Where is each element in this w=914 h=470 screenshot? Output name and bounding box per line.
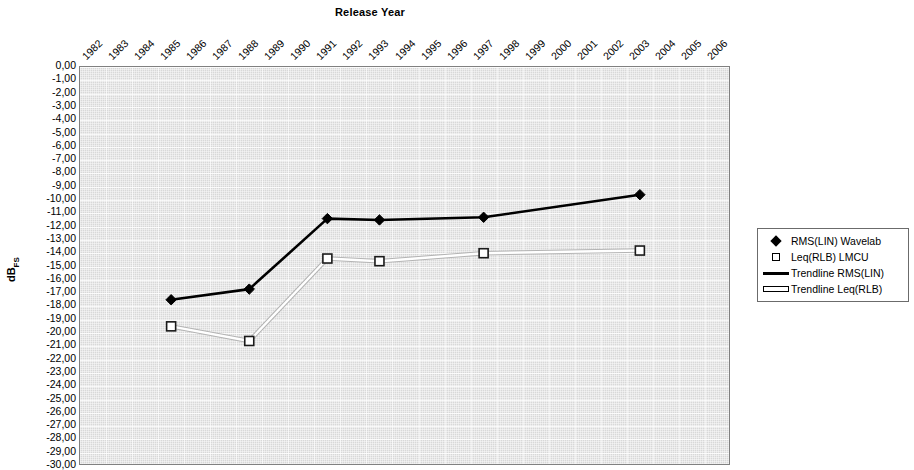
y-axis-tick-label: -23,00 xyxy=(4,366,76,376)
data-point-diamond xyxy=(478,212,488,222)
y-axis-tick-label: -22,00 xyxy=(4,353,76,363)
y-axis-tick-label: -6,00 xyxy=(4,140,76,150)
chart-legend: RMS(LIN) Wavelab Leq(RLB) LMCU Trendline… xyxy=(757,228,909,302)
y-axis-tick-label: -13,00 xyxy=(4,233,76,243)
x-axis-tick-label: 2003 xyxy=(626,37,651,62)
x-axis-tick-label: 2005 xyxy=(678,37,703,62)
data-point-square xyxy=(323,254,332,263)
legend-label: RMS(LIN) Wavelab xyxy=(790,235,881,247)
y-axis-tick-label: -5,00 xyxy=(4,127,76,137)
legend-label: Trendline Leq(RLB) xyxy=(790,283,882,295)
series-layer xyxy=(80,67,730,465)
x-axis-tick-label: 1986 xyxy=(184,37,209,62)
y-axis-tick-label: -24,00 xyxy=(4,379,76,389)
y-axis-tick-label: -16,00 xyxy=(4,273,76,283)
data-point-diamond xyxy=(374,215,384,225)
x-axis-tick-label: 1989 xyxy=(262,37,287,62)
y-axis-tick-label: -28,00 xyxy=(4,432,76,442)
series-rms-lin-wavelab xyxy=(166,189,645,304)
data-point-square xyxy=(479,249,488,258)
y-axis-tick-label: -4,00 xyxy=(4,113,76,123)
series-leq-rlb-lmcu xyxy=(167,246,645,345)
series-line xyxy=(171,251,640,342)
y-axis-tick-label: -21,00 xyxy=(4,339,76,349)
x-axis-ticks: 1982198319841985198619871988198919901991… xyxy=(0,0,914,66)
legend-label: Trendline RMS(LIN) xyxy=(790,267,884,279)
series-line xyxy=(171,195,640,300)
y-axis-ticks: 0,00-1,00-2,00-3,00-4,00-5,00-6,00-7,00-… xyxy=(0,0,76,467)
x-axis-tick-label: 1990 xyxy=(288,37,313,62)
legend-item-trendline-leq-rlb[interactable]: Trendline Leq(RLB) xyxy=(762,281,905,297)
y-axis-tick-label: -15,00 xyxy=(4,260,76,270)
y-axis-tick-label: -12,00 xyxy=(4,220,76,230)
y-axis-tick-label: -1,00 xyxy=(4,73,76,83)
y-axis-tick-label: -3,00 xyxy=(4,100,76,110)
y-axis-tick-label: -30,00 xyxy=(4,459,76,469)
x-axis-tick-label: 1987 xyxy=(210,37,235,62)
x-axis-tick-label: 2001 xyxy=(574,37,599,62)
legend-item-rms-lin-wavelab[interactable]: RMS(LIN) Wavelab xyxy=(762,233,905,249)
x-axis-tick-label: 2000 xyxy=(548,37,573,62)
x-axis-tick-label: 1998 xyxy=(496,37,521,62)
x-axis-tick-label: 1999 xyxy=(522,37,547,62)
y-axis-tick-label: -8,00 xyxy=(4,166,76,176)
data-point-square xyxy=(245,336,254,345)
x-axis-tick-label: 1993 xyxy=(366,37,391,62)
plot-area xyxy=(79,66,730,465)
y-axis-tick-label: -25,00 xyxy=(4,393,76,403)
y-axis-tick-label: -2,00 xyxy=(4,87,76,97)
legend-item-leq-rlb-lmcu[interactable]: Leq(RLB) LMCU xyxy=(762,249,905,265)
black-line-icon xyxy=(762,272,790,275)
y-axis-tick-label: -14,00 xyxy=(4,246,76,256)
y-axis-tick-label: -7,00 xyxy=(4,153,76,163)
y-axis-tick-label: -19,00 xyxy=(4,313,76,323)
y-axis-tick-label: -10,00 xyxy=(4,193,76,203)
x-axis-tick-label: 2006 xyxy=(704,37,729,62)
x-axis-tick-label: 1992 xyxy=(340,37,365,62)
diamond-marker-icon xyxy=(762,237,790,245)
y-axis-tick-label: -29,00 xyxy=(4,446,76,456)
square-marker-icon xyxy=(762,253,790,261)
y-axis-tick-label: -26,00 xyxy=(4,406,76,416)
x-axis-tick-label: 1996 xyxy=(444,37,469,62)
legend-item-trendline-rms-lin[interactable]: Trendline RMS(LIN) xyxy=(762,265,905,281)
x-axis-tick-label: 1995 xyxy=(418,37,443,62)
legend-label: Leq(RLB) LMCU xyxy=(790,251,869,263)
series-line-halo xyxy=(171,251,640,342)
y-axis-tick-label: -11,00 xyxy=(4,206,76,216)
x-axis-tick-label: 1991 xyxy=(314,37,339,62)
x-axis-tick-label: 1984 xyxy=(132,37,157,62)
y-axis-tick-label: -20,00 xyxy=(4,326,76,336)
data-point-square xyxy=(167,322,176,331)
x-axis-tick-label: 1983 xyxy=(106,37,131,62)
y-axis-tick-label: -27,00 xyxy=(4,419,76,429)
x-axis-tick-label: 1985 xyxy=(158,37,183,62)
data-point-square xyxy=(375,257,384,266)
y-axis-tick-label: -18,00 xyxy=(4,299,76,309)
x-axis-tick-label: 2002 xyxy=(600,37,625,62)
y-axis-tick-label: -9,00 xyxy=(4,180,76,190)
data-point-diamond xyxy=(635,189,645,199)
y-axis-tick-label: -17,00 xyxy=(4,286,76,296)
data-point-diamond xyxy=(166,295,176,305)
x-axis-tick-label: 2004 xyxy=(652,37,677,62)
x-axis-tick-label: 1997 xyxy=(470,37,495,62)
data-point-square xyxy=(635,246,644,255)
x-axis-tick-label: 1994 xyxy=(392,37,417,62)
white-line-icon xyxy=(762,286,790,292)
x-axis-tick-label: 1988 xyxy=(236,37,261,62)
x-axis-tick-label: 1982 xyxy=(80,37,105,62)
